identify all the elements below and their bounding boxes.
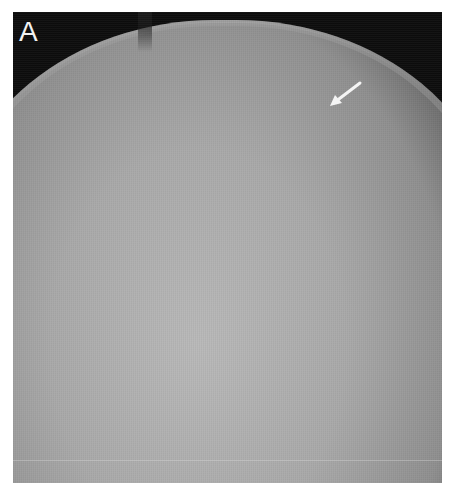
panel-label: A — [19, 18, 38, 46]
radiograph-image — [13, 12, 442, 483]
arrow-icon — [327, 80, 363, 110]
calvarial-rim — [13, 22, 442, 483]
sagittal-suture — [138, 12, 152, 52]
scan-artifact-line — [13, 460, 442, 461]
